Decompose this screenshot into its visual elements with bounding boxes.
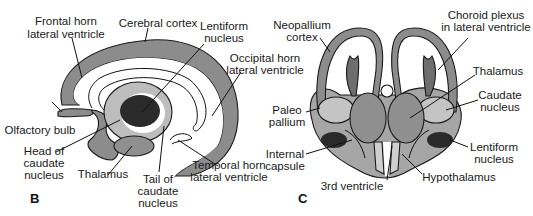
panel-c: Neopallium cortex Choroid plexus in late… — [265, 9, 531, 206]
label-choroid-plexus-2: in lateral ventricle — [441, 21, 530, 33]
label-tail-caudate-2: caudate — [138, 185, 179, 197]
label-paleopallium-2: pallium — [269, 116, 305, 128]
label-temporal-horn: Temporal horn — [192, 159, 266, 171]
label-neopallium-2: cortex — [286, 31, 318, 43]
label-occipital-horn-2: lateral ventricle — [226, 64, 303, 76]
label-thalamus-b: Thalamus — [78, 168, 129, 180]
label-lentiform-c-2: nucleus — [474, 153, 514, 165]
right-thalamus-shape — [388, 93, 424, 143]
lentiform-nucleus-shape — [120, 95, 160, 127]
olfactory-bulb-shape — [58, 109, 93, 117]
label-paleopallium: Paleo — [272, 104, 301, 116]
label-frontal-horn: Frontal horn — [35, 15, 97, 27]
label-lentiform-c: Lentiform — [470, 141, 518, 153]
label-tail-caudate: Tail of — [143, 173, 174, 185]
label-head-caudate: Head of — [24, 145, 65, 157]
label-cerebral-cortex: Cerebral cortex — [119, 17, 198, 29]
brain-development-diagram: Frontal horn lateral ventricle Cerebral … — [0, 0, 533, 216]
left-hypothalamus-shape — [374, 142, 384, 174]
label-third-ventricle: 3rd ventricle — [321, 180, 384, 192]
panel-letter-c: C — [298, 191, 308, 206]
label-olfactory-bulb: Olfactory bulb — [5, 124, 76, 136]
label-lentiform-b: Lentiform — [200, 20, 248, 32]
panel-letter-b: B — [30, 191, 39, 206]
left-choroid-plexus — [347, 56, 359, 96]
thalamus-shape — [114, 136, 154, 156]
label-hypothalamus: Hypothalamus — [422, 171, 496, 183]
left-caudate-shape — [318, 97, 354, 123]
left-thalamus-shape — [350, 93, 386, 143]
label-temporal-horn-2: lateral ventricle — [190, 171, 267, 183]
panel-b: Frontal horn lateral ventricle Cerebral … — [5, 15, 304, 209]
label-tail-caudate-3: nucleus — [138, 197, 178, 209]
label-frontal-horn-2: lateral ventricle — [27, 28, 104, 40]
label-caudate-c: Caudate — [478, 89, 521, 101]
label-caudate-c-2: nucleus — [480, 101, 520, 113]
label-thalamus-c: Thalamus — [473, 65, 524, 77]
label-choroid-plexus: Choroid plexus — [448, 9, 525, 21]
right-lentiform-shape — [427, 132, 453, 148]
label-neopallium: Neopallium — [273, 19, 331, 31]
label-internal-capsule: Internal — [266, 148, 304, 160]
label-occipital-horn: Occipital horn — [230, 52, 300, 64]
label-internal-capsule-2: capsule — [265, 160, 305, 172]
label-head-caudate-3: nucleus — [24, 169, 64, 181]
label-head-caudate-2: caudate — [24, 157, 65, 169]
roof-choroid — [381, 85, 393, 97]
label-lentiform-b-2: nucleus — [204, 32, 244, 44]
